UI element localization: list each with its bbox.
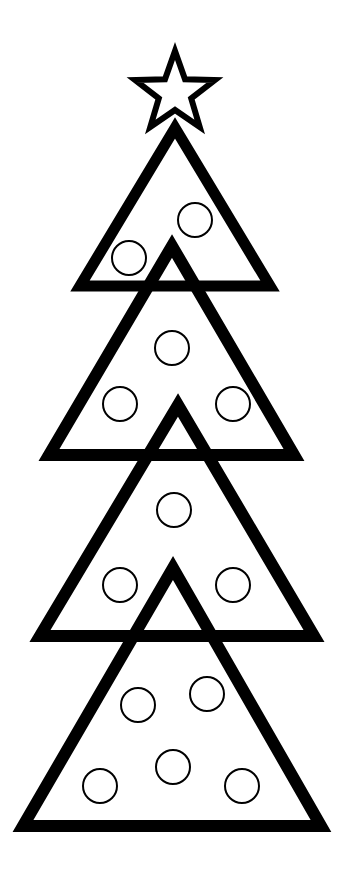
ornament-icon (178, 203, 212, 237)
tree-tier-3 (40, 405, 314, 636)
ornament-icon (103, 387, 137, 421)
star-shape (135, 51, 215, 127)
ornament-icon (121, 688, 155, 722)
tree-illustration (0, 0, 348, 893)
star-icon (135, 51, 215, 127)
tree-tier-4 (23, 568, 321, 826)
ornament-icon (103, 568, 137, 602)
ornament-icon (225, 769, 259, 803)
ornament-icon (216, 568, 250, 602)
ornament-icon (156, 750, 190, 784)
ornament-icon (157, 493, 191, 527)
ornament-icon (216, 387, 250, 421)
tree-tiers (23, 128, 321, 826)
ornament-icon (190, 677, 224, 711)
tier-outline (23, 568, 321, 826)
ornament-icon (112, 241, 146, 275)
ornament-icon (155, 331, 189, 365)
ornament-icon (83, 769, 117, 803)
christmas-tree-drawing (0, 0, 348, 893)
